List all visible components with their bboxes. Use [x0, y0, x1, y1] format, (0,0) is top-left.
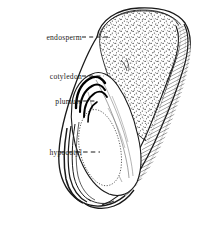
label-hypocotyl: hypocotyl	[49, 148, 82, 157]
label-plumule: plumule	[55, 97, 82, 106]
label-endosperm: endosperm	[46, 33, 82, 42]
seed-diagram-figure: endosperm cotyledon plumule hypocotyl	[0, 0, 207, 226]
seed-diagram-illustration	[0, 0, 207, 226]
label-cotyledon: cotyledon	[50, 72, 82, 81]
